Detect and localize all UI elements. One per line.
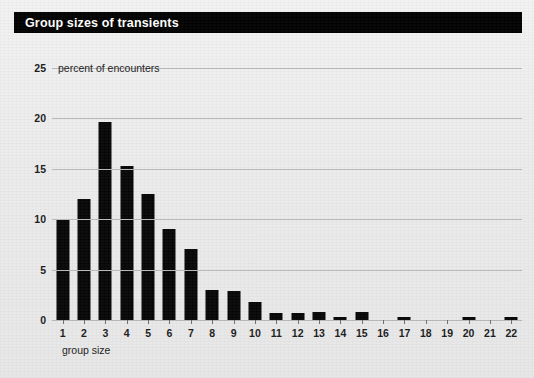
x-axis-tick-label: 17 xyxy=(399,327,411,339)
x-axis-tick xyxy=(148,320,149,324)
x-tick-slot: 12 xyxy=(287,68,308,320)
x-axis-tick xyxy=(447,320,448,324)
x-axis-tick-label: 7 xyxy=(188,327,194,339)
x-tick-slot: 1 xyxy=(52,68,73,320)
x-tick-slot: 9 xyxy=(223,68,244,320)
x-tick-slot: 18 xyxy=(415,68,436,320)
x-axis-title: group size xyxy=(62,344,110,356)
x-axis-tick xyxy=(234,320,235,324)
x-axis-tick xyxy=(84,320,85,324)
x-tick-slot: 13 xyxy=(308,68,329,320)
x-axis-tick-label: 16 xyxy=(377,327,389,339)
x-tick-slot: 15 xyxy=(351,68,372,320)
y-axis-tick-label: 0 xyxy=(40,314,46,326)
x-axis-tick xyxy=(169,320,170,324)
y-axis-tick-label: 25 xyxy=(34,62,46,74)
x-tick-slot: 21 xyxy=(479,68,500,320)
x-tick-slot: 7 xyxy=(180,68,201,320)
x-axis-tick xyxy=(319,320,320,324)
y-axis-tick-label: 5 xyxy=(40,264,46,276)
x-tick-slot: 6 xyxy=(159,68,180,320)
x-axis-tick xyxy=(511,320,512,324)
x-axis-tick xyxy=(383,320,384,324)
gridline xyxy=(52,320,522,321)
x-tick-slot: 2 xyxy=(73,68,94,320)
x-axis-tick-label: 2 xyxy=(81,327,87,339)
x-axis-tick xyxy=(340,320,341,324)
x-axis-tick-label: 6 xyxy=(167,327,173,339)
x-axis-tick xyxy=(490,320,491,324)
y-axis-tick-label: 20 xyxy=(34,112,46,124)
x-axis-tick xyxy=(255,320,256,324)
x-tick-slot: 20 xyxy=(458,68,479,320)
y-axis-tick-label: 15 xyxy=(34,163,46,175)
x-axis-tick-label: 8 xyxy=(209,327,215,339)
x-tick-slot: 8 xyxy=(202,68,223,320)
x-tick-slot: 5 xyxy=(137,68,158,320)
x-tick-slot: 3 xyxy=(95,68,116,320)
x-axis-tick xyxy=(127,320,128,324)
x-axis-tick-label: 20 xyxy=(463,327,475,339)
x-tick-slot: 17 xyxy=(394,68,415,320)
x-axis-tick-label: 15 xyxy=(356,327,368,339)
x-axis-tick-label: 19 xyxy=(441,327,453,339)
x-tick-slot: 19 xyxy=(437,68,458,320)
x-axis-tick xyxy=(298,320,299,324)
x-tick-slot: 16 xyxy=(372,68,393,320)
x-axis-tick-label: 3 xyxy=(102,327,108,339)
x-axis-tick-label: 12 xyxy=(292,327,304,339)
x-axis-tick xyxy=(212,320,213,324)
x-axis-tick xyxy=(191,320,192,324)
x-axis-tick-label: 1 xyxy=(60,327,66,339)
x-axis-tick xyxy=(404,320,405,324)
x-tick-slot: 4 xyxy=(116,68,137,320)
x-axis-tick xyxy=(469,320,470,324)
x-tick-slot: 10 xyxy=(244,68,265,320)
x-tick-slot: 14 xyxy=(330,68,351,320)
chart-page: Group sizes of transients 0510152025perc… xyxy=(0,0,534,378)
x-axis-tick-label: 4 xyxy=(124,327,130,339)
x-axis-tick-label: 21 xyxy=(484,327,496,339)
plot-area: 0510152025percent of encounters 12345678… xyxy=(52,68,522,320)
x-axis-tick-label: 14 xyxy=(335,327,347,339)
x-axis-tick-label: 13 xyxy=(313,327,325,339)
x-axis-tick xyxy=(362,320,363,324)
y-axis-tick-label: 10 xyxy=(34,213,46,225)
x-axis-tick-label: 10 xyxy=(249,327,261,339)
x-axis-tick-label: 11 xyxy=(271,327,282,339)
plot-wrapper: 0510152025percent of encounters 12345678… xyxy=(0,0,534,378)
x-axis-tick xyxy=(276,320,277,324)
x-axis-tick-label: 9 xyxy=(231,327,237,339)
x-axis-tick-label: 5 xyxy=(145,327,151,339)
x-tick-slot: 22 xyxy=(501,68,522,320)
x-axis-tick-label: 18 xyxy=(420,327,432,339)
x-axis-tick xyxy=(426,320,427,324)
x-tick-slot: 11 xyxy=(266,68,287,320)
x-axis-tick-label: 22 xyxy=(505,327,517,339)
x-axis-tick xyxy=(105,320,106,324)
x-axis-tick xyxy=(63,320,64,324)
